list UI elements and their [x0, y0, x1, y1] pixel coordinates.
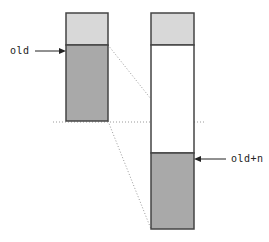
arrowhead-left-icon	[194, 156, 201, 162]
old-label: old	[10, 45, 30, 56]
left-block	[66, 13, 108, 121]
old-arrow	[35, 48, 66, 54]
right-block-dark-segment	[151, 153, 194, 229]
diagram-canvas	[0, 0, 269, 242]
projection-line-bottom	[108, 121, 151, 229]
left-block-dark-segment	[66, 45, 108, 121]
old-plus-n-arrow	[194, 156, 226, 162]
old-plus-n-label: old+n	[231, 153, 264, 164]
left-block-light-segment	[66, 13, 108, 45]
right-block-empty-segment	[151, 45, 194, 153]
right-block	[151, 13, 194, 229]
arrowhead-right-icon	[59, 48, 66, 54]
right-block-light-segment	[151, 13, 194, 45]
